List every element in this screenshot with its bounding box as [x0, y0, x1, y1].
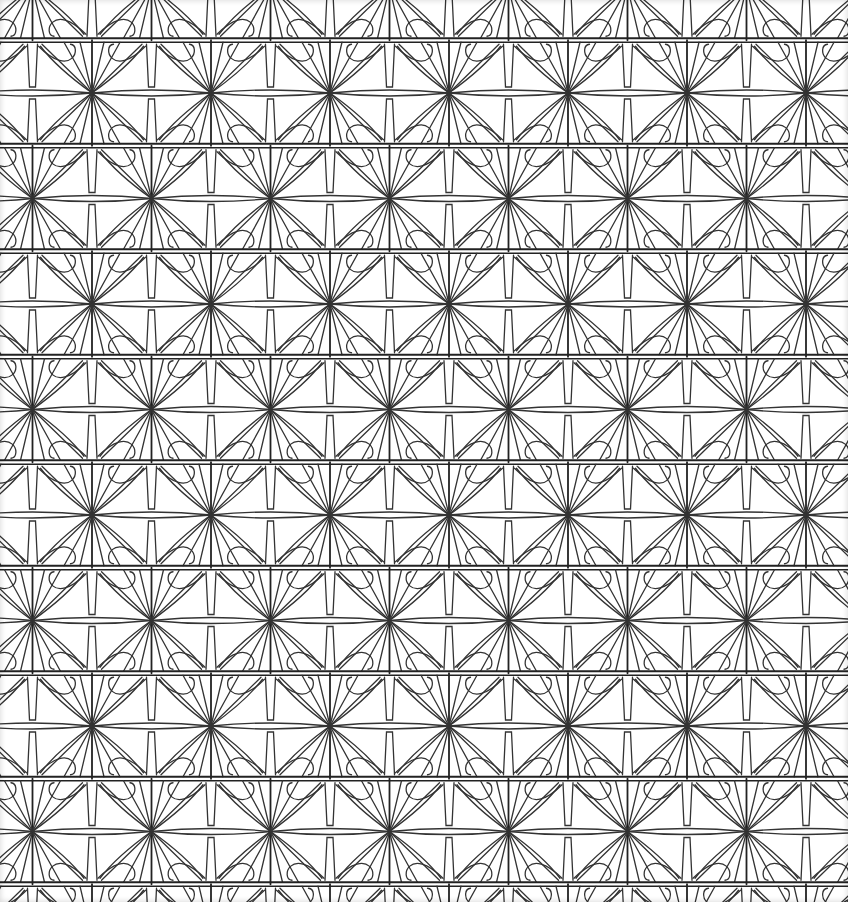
tiled-star-pattern — [0, 0, 848, 902]
